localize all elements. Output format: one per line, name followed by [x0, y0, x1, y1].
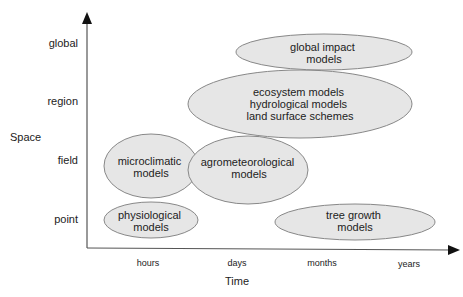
space-time-diagram: global region field point Space hours da…	[0, 0, 463, 297]
x-axis	[87, 248, 452, 250]
y-axis-title: Space	[10, 131, 41, 143]
y-tick-point: point	[54, 213, 78, 225]
y-axis-arrow-icon	[82, 12, 92, 24]
x-tick-months: months	[307, 258, 337, 268]
y-tick-global: global	[49, 37, 78, 49]
y-tick-region: region	[47, 95, 78, 107]
y-tick-field: field	[58, 154, 78, 166]
x-axis-title: Time	[225, 275, 249, 287]
label-ecosystem: ecosystem models hydrological models lan…	[247, 86, 354, 122]
x-tick-days: days	[227, 258, 247, 268]
x-tick-hours: hours	[137, 258, 160, 268]
x-tick-years: years	[398, 259, 421, 269]
x-axis-arrow-icon	[448, 245, 460, 255]
